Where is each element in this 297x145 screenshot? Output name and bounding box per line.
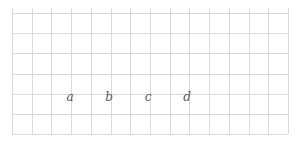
grid-paper <box>0 0 297 145</box>
point-label-d: d <box>183 91 191 103</box>
point-label-c: c <box>145 91 152 103</box>
point-label-a: a <box>66 91 73 103</box>
point-label-b: b <box>105 91 113 103</box>
